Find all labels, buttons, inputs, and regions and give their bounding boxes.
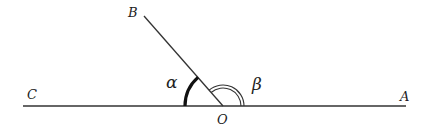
label-a: A <box>399 89 409 104</box>
label-b: B <box>127 5 138 20</box>
label-beta: β <box>251 74 262 94</box>
label-c: C <box>27 87 37 102</box>
label-o: O <box>217 112 228 127</box>
diagram-canvas: B C A O α β <box>0 0 430 133</box>
label-alpha: α <box>166 72 178 92</box>
angle-diagram: B C A O α β <box>0 0 430 133</box>
alpha-arc <box>185 77 198 106</box>
